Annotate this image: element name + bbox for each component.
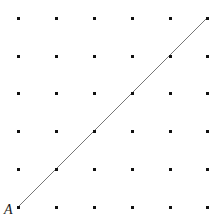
- lattice-dot: [131, 130, 134, 133]
- lattice-dot: [131, 55, 134, 58]
- lattice-dot: [131, 168, 134, 171]
- lattice-dot: [55, 206, 58, 209]
- lattice-dot: [93, 130, 96, 133]
- lattice-dot: [169, 17, 172, 20]
- lattice-dot: [93, 168, 96, 171]
- lattice-dot: [206, 17, 209, 20]
- lattice-dot: [17, 206, 20, 209]
- lattice-dot: [131, 17, 134, 20]
- point-label-a: A: [4, 203, 13, 217]
- lattice-dot: [206, 206, 209, 209]
- lattice-dot: [169, 92, 172, 95]
- lattice-dot: [93, 92, 96, 95]
- lattice-dot: [17, 55, 20, 58]
- lattice-dot: [206, 55, 209, 58]
- figure-background: [0, 0, 222, 220]
- lattice-dot: [131, 92, 134, 95]
- lattice-dot: [17, 130, 20, 133]
- lattice-dot: [169, 168, 172, 171]
- lattice-dot: [93, 55, 96, 58]
- lattice-dot: [17, 168, 20, 171]
- lattice-dot: [17, 17, 20, 20]
- lattice-dot: [55, 55, 58, 58]
- lattice-dot: [55, 92, 58, 95]
- lattice-dot: [55, 130, 58, 133]
- lattice-dot: [93, 206, 96, 209]
- lattice-dot: [169, 206, 172, 209]
- lattice-dot: [93, 17, 96, 20]
- lattice-dot: [206, 168, 209, 171]
- lattice-dot: [131, 206, 134, 209]
- lattice-dot: [206, 130, 209, 133]
- lattice-dot: [17, 92, 20, 95]
- lattice-dot: [206, 92, 209, 95]
- lattice-dot: [55, 168, 58, 171]
- lattice-dot: [55, 17, 58, 20]
- lattice-canvas: [0, 0, 222, 220]
- lattice-dot: [169, 55, 172, 58]
- lattice-diagram: A: [0, 0, 222, 220]
- lattice-dot: [169, 130, 172, 133]
